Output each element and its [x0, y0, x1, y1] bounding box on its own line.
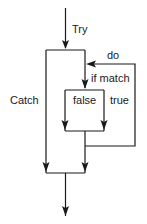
do-label: do: [107, 50, 119, 61]
try-label: Try: [72, 24, 87, 35]
catch-label: Catch: [10, 95, 39, 106]
false-label: false: [73, 95, 96, 106]
true-label: true: [110, 95, 129, 106]
if-match-label: if match: [91, 73, 130, 84]
